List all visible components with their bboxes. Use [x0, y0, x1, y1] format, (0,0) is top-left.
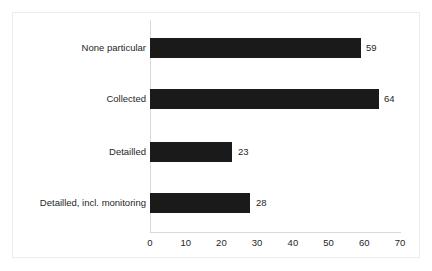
category-axis-line	[150, 232, 401, 233]
x-tick-label: 10	[180, 238, 191, 248]
x-tick-label: 20	[216, 238, 227, 248]
category-label: Detailled, incl. monitoring	[40, 198, 146, 208]
x-tick-label: 60	[359, 238, 370, 248]
category-label: Collected	[106, 94, 146, 104]
bar[interactable]	[150, 89, 379, 109]
bar-value-label: 28	[256, 198, 267, 208]
bar-value-label: 64	[384, 94, 395, 104]
x-tick-label: 0	[147, 238, 152, 248]
bar[interactable]	[150, 193, 250, 213]
bar-value-label: 23	[238, 147, 249, 157]
bar-value-label: 59	[366, 43, 377, 53]
bar[interactable]	[150, 38, 361, 58]
x-tick-label: 30	[252, 238, 263, 248]
category-label: None particular	[82, 43, 146, 53]
x-tick-label: 40	[288, 238, 299, 248]
x-tick-label: 70	[395, 238, 406, 248]
category-label: Detailled	[109, 147, 146, 157]
bar-chart: None particular Collected Detailled Deta…	[0, 0, 432, 271]
bar[interactable]	[150, 142, 232, 162]
x-tick-label: 50	[323, 238, 334, 248]
